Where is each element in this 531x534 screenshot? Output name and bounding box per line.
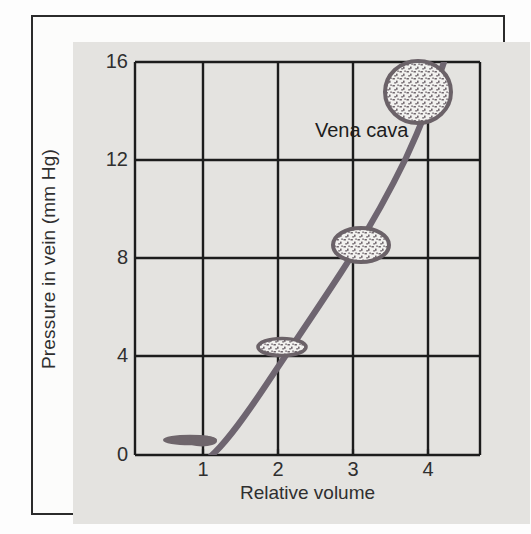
y-tick-label-0: 0	[88, 443, 128, 466]
figure-container: 16 12 8 4 0 1 2 3 4 Pressure in vein (mm…	[0, 0, 531, 534]
x-tick-label-3: 3	[338, 458, 368, 481]
x-tick-label-2: 2	[263, 458, 293, 481]
y-tick-label-12: 12	[88, 148, 128, 171]
y-tick-label-16: 16	[88, 50, 128, 73]
x-axis-title: Relative volume	[135, 482, 480, 504]
x-tick-label-4: 4	[413, 458, 443, 481]
chart-panel-background	[73, 42, 530, 524]
y-tick-label-4: 4	[88, 344, 128, 367]
x-tick-label-1: 1	[188, 458, 218, 481]
y-tick-label-8: 8	[88, 246, 128, 269]
vena-cava-annotation: Vena cava	[315, 119, 408, 142]
y-axis-title: Pressure in vein (mm Hg)	[38, 144, 60, 374]
